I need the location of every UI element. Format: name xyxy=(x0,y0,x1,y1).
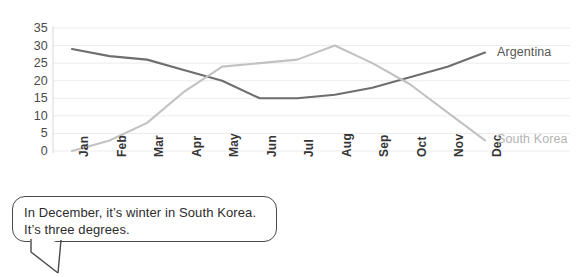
series-line-argentina xyxy=(72,49,485,98)
x-axis-tick-label-may: May xyxy=(227,133,241,157)
speech-bubble-line-2: It’s three degrees. xyxy=(24,222,130,237)
y-axis-tick-label: 35 xyxy=(22,22,48,34)
y-axis-tick-label: 0 xyxy=(22,145,48,157)
speech-bubble: In December, it’s winter in South Korea.… xyxy=(12,196,277,242)
speech-bubble-tail xyxy=(28,238,88,276)
x-axis-tick-label-nov: Nov xyxy=(452,134,466,157)
speech-bubble-text: In December, it’s winter in South Korea.… xyxy=(24,204,266,238)
x-axis-tick-label-jul: Jul xyxy=(302,139,316,157)
x-axis-tick-label-jan: Jan xyxy=(77,136,91,157)
x-axis-tick-label-jun: Jun xyxy=(265,135,279,157)
x-axis-tick-label-mar: Mar xyxy=(152,135,166,157)
x-axis-tick-label-oct: Oct xyxy=(415,136,429,157)
y-axis-tick-label: 25 xyxy=(22,57,48,69)
x-axis-tick-label-sep: Sep xyxy=(377,134,391,157)
x-axis-tick-label-apr: Apr xyxy=(190,136,204,157)
x-axis-tick-label-aug: Aug xyxy=(340,133,354,157)
y-axis-tick-label: 15 xyxy=(22,92,48,104)
series-label-south-korea: South Korea xyxy=(497,132,568,146)
y-axis-tick-label: 20 xyxy=(22,75,48,87)
y-axis-tick-label: 5 xyxy=(22,127,48,139)
y-axis-tick-label: 10 xyxy=(22,110,48,122)
x-axis-tick-label-feb: Feb xyxy=(115,135,129,157)
chart-plot-svg xyxy=(0,0,580,190)
y-axis-tick-label: 30 xyxy=(22,40,48,52)
chart-gridlines xyxy=(53,28,570,151)
speech-bubble-line-1: In December, it’s winter in South Korea. xyxy=(24,205,256,220)
series-label-argentina: Argentina xyxy=(497,45,551,59)
temperature-line-chart: 05101520253035 JanFebMarAprMayJunJulAugS… xyxy=(0,0,580,190)
